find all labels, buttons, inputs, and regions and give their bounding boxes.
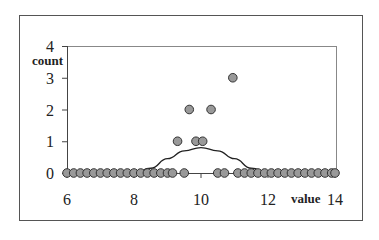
chart: 01234 68101214 count value	[0, 0, 379, 240]
data-point	[229, 73, 238, 82]
x-tick-label: 12	[260, 191, 276, 208]
y-tick-label: 1	[46, 133, 54, 150]
data-point	[173, 137, 182, 146]
data-point	[220, 169, 229, 178]
data-point	[331, 169, 340, 178]
data-point	[180, 169, 189, 178]
x-axis-title: value	[291, 191, 321, 206]
y-tick-label: 0	[46, 165, 54, 182]
data-point	[198, 137, 207, 146]
y-tick-label: 2	[46, 102, 54, 119]
y-tick-label: 3	[46, 70, 54, 87]
x-tick-label: 6	[63, 191, 71, 208]
y-axis-title: count	[32, 53, 64, 68]
x-tick-label: 10	[193, 191, 209, 208]
data-point	[207, 105, 216, 114]
data-point	[185, 105, 194, 114]
data-point	[168, 169, 177, 178]
x-tick-label: 14	[327, 191, 343, 208]
x-tick-label: 8	[130, 191, 138, 208]
